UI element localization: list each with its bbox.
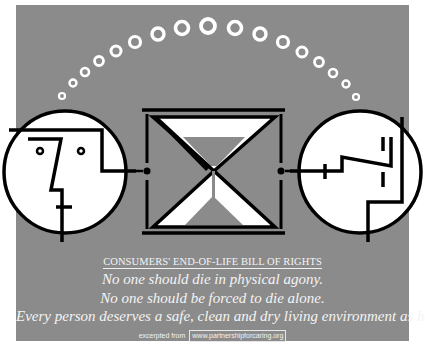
- source-url-link[interactable]: www.partnershipforcaring.org: [189, 330, 286, 342]
- right-line-3: Every person deserves a safe, clean and …: [16, 307, 409, 326]
- profile-face-right-icon: [290, 111, 421, 242]
- footer-prefix: excerpted from: [139, 332, 186, 339]
- profile-face-left-icon: [4, 111, 136, 242]
- bill-of-rights-text: CONSUMERS' END-OF-LIFE BILL OF RIGHTS No…: [16, 250, 409, 342]
- source-footer: excerpted from www.partnershipforcaring.…: [16, 330, 409, 342]
- ring-arc: [59, 19, 359, 100]
- hourglass-icon: [136, 110, 292, 233]
- right-line-1: No one should die in physical agony.: [16, 270, 409, 289]
- right-line-2: No one should be forced to die alone.: [16, 289, 409, 308]
- heading: CONSUMERS' END-OF-LIFE BILL OF RIGHTS: [103, 256, 322, 269]
